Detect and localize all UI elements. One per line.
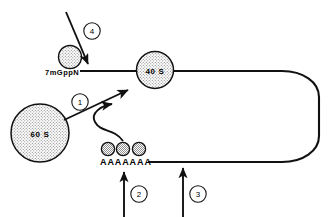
- cap-structure-label: 7mGppN: [45, 68, 79, 77]
- poly-a-binding-protein-2: [116, 142, 129, 155]
- step-marker-2[interactable]: 2: [131, 186, 147, 202]
- poly-a-binding-protein-3: [132, 142, 145, 155]
- poly-a-binding-protein-1: [101, 142, 114, 155]
- mrna-circular-loop: [282, 71, 319, 162]
- step-marker-4[interactable]: 4: [84, 23, 100, 39]
- cap-binding-protein-circle: [59, 46, 82, 69]
- step-marker-1[interactable]: 1: [72, 94, 88, 110]
- ribosome-40s-label: 40 S: [146, 67, 165, 76]
- ribosome-40s-subunit[interactable]: 40 S: [137, 52, 174, 89]
- step-marker-3-label: 3: [196, 190, 201, 199]
- poly-a-tail-label: AAAAAAA: [100, 157, 152, 167]
- step-marker-3[interactable]: 3: [190, 186, 206, 202]
- ribosome-60s-label: 60 S: [31, 130, 50, 139]
- arrow-circularization: [94, 104, 123, 141]
- diagram-canvas: 40 S 60 S 7mGppN AAAAAAA 1: [0, 0, 333, 217]
- step-marker-1-label: 1: [78, 98, 83, 107]
- step-marker-4-label: 4: [90, 27, 95, 36]
- ribosome-60s-subunit[interactable]: 60 S: [11, 104, 69, 162]
- arrow-circularization-line: [94, 104, 123, 141]
- step-marker-2-label: 2: [137, 190, 142, 199]
- poly-a-tail-group[interactable]: AAAAAAA: [100, 142, 152, 167]
- cap-structure-group[interactable]: 7mGppN: [45, 46, 82, 78]
- diagram-svg: 40 S 60 S 7mGppN AAAAAAA 1: [0, 0, 333, 217]
